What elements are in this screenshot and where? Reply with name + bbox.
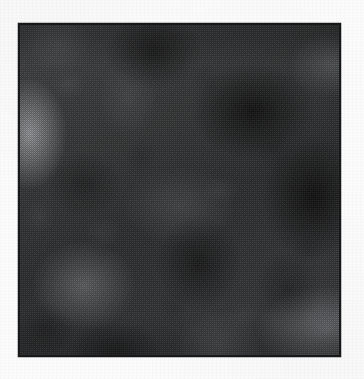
texture-mottling-layer xyxy=(20,25,339,355)
scan-vignette-layer xyxy=(20,25,339,355)
texture-light-blobs xyxy=(20,25,339,355)
texture-base-gradient xyxy=(20,25,339,355)
scanned-page xyxy=(0,0,364,379)
halftone-dither-screen xyxy=(20,25,339,355)
texture-dark-blobs xyxy=(20,25,339,355)
film-grain-layer xyxy=(20,25,339,355)
grayscale-texture-plate xyxy=(18,23,341,357)
